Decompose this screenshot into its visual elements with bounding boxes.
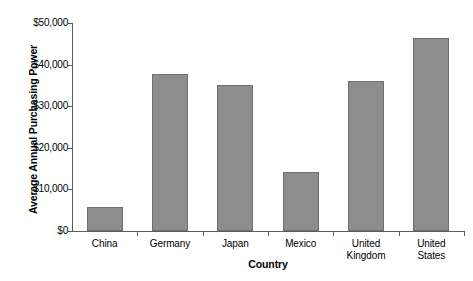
y-axis-tick-label: $40,000 <box>30 60 68 70</box>
y-axis-tick-mark <box>68 23 73 24</box>
x-axis-category-label-line: Japan <box>203 238 268 250</box>
x-axis-tick-mark <box>203 231 204 236</box>
x-axis-category-label: Germany <box>137 238 202 250</box>
y-axis-tick-label: $20,000 <box>30 143 68 153</box>
x-axis-category-label-line: China <box>72 238 137 250</box>
y-axis-tick-label: $50,000 <box>30 18 68 28</box>
y-axis-tick-mark <box>68 189 73 190</box>
x-axis-tick-mark <box>333 231 334 236</box>
x-axis-tick-mark <box>137 231 138 236</box>
y-axis-tick-labels: $0$10,000$20,000$30,000$40,000$50,000 <box>30 0 68 281</box>
x-axis-tick-mark <box>268 231 269 236</box>
x-axis-tick-mark <box>464 231 465 236</box>
bar <box>217 85 253 231</box>
x-axis-category-label: Japan <box>203 238 268 250</box>
x-axis-category-label-line: United <box>333 238 398 250</box>
y-axis-tick-label: $10,000 <box>30 184 68 194</box>
x-axis-tick-mark <box>399 231 400 236</box>
bar <box>413 38 449 231</box>
bar <box>152 74 188 231</box>
x-axis-title: Country <box>72 258 464 270</box>
bar <box>87 207 123 231</box>
x-axis-category-label: China <box>72 238 137 250</box>
x-axis-category-label-line: Germany <box>137 238 202 250</box>
x-axis-category-label: Mexico <box>268 238 333 250</box>
plot-area: ChinaGermanyJapanMexicoUnitedKingdomUnit… <box>72 23 464 231</box>
y-axis-tick-label: $0 <box>30 226 68 236</box>
y-axis-tick-mark <box>68 231 73 232</box>
bar <box>283 172 319 231</box>
bar <box>348 81 384 231</box>
y-axis-tick-mark <box>68 106 73 107</box>
y-axis-tick-mark <box>68 65 73 66</box>
x-axis-category-label-line: Mexico <box>268 238 333 250</box>
x-axis-category-label-line: United <box>399 238 464 250</box>
y-axis-line <box>72 23 73 231</box>
bar-chart: Average Annual Purchasing Power $0$10,00… <box>0 0 473 281</box>
y-axis-tick-mark <box>68 148 73 149</box>
y-axis-tick-label: $30,000 <box>30 101 68 111</box>
